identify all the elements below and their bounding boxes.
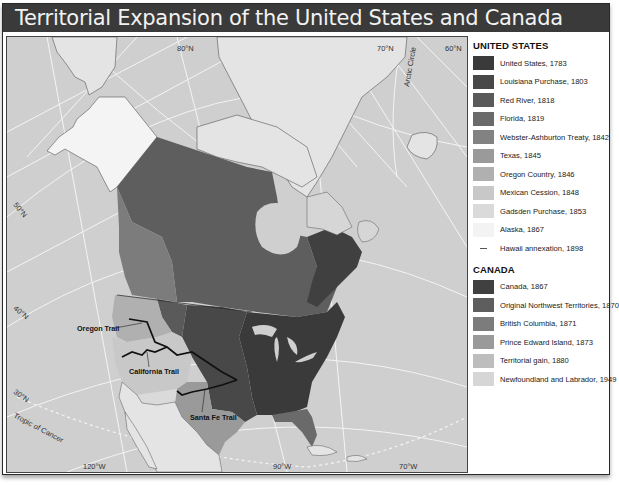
legend-item: Hawaii annexation, 1898 xyxy=(473,239,609,258)
legend-label: Louisiana Purchase, 1803 xyxy=(500,77,588,86)
legend-label: Prince Edward Island, 1873 xyxy=(500,338,593,347)
color-swatch xyxy=(473,317,494,331)
map-title: Territorial Expansion of the United Stat… xyxy=(15,6,563,30)
color-swatch xyxy=(473,56,494,70)
legend-label: Red River, 1818 xyxy=(500,96,554,105)
title-bar: Territorial Expansion of the United Stat… xyxy=(3,4,609,32)
color-swatch xyxy=(473,75,494,89)
color-swatch xyxy=(473,335,494,349)
legend: UNITED STATES United States, 1783Louisia… xyxy=(469,36,609,471)
color-swatch xyxy=(473,372,494,386)
oregon-trail-label: Oregon Trail xyxy=(77,324,119,333)
legend-item: Newfoundland and Labrador, 1949 xyxy=(473,370,609,389)
legend-item: Original Northwest Territories, 1870 xyxy=(473,296,609,315)
lon-70w-label: 70°W xyxy=(399,462,418,471)
legend-label: Newfoundland and Labrador, 1949 xyxy=(500,375,617,384)
legend-item: Oregon Country, 1846 xyxy=(473,165,609,184)
line-symbol-icon xyxy=(473,241,494,255)
legend-item: Canada, 1867 xyxy=(473,278,609,297)
legend-label: Original Northwest Territories, 1870 xyxy=(500,301,619,310)
color-swatch xyxy=(473,204,494,218)
color-swatch xyxy=(473,130,494,144)
color-swatch xyxy=(473,354,494,368)
map-figure: Territorial Expansion of the United Stat… xyxy=(2,3,610,475)
legend-item: British Columbia, 1871 xyxy=(473,315,609,334)
color-swatch xyxy=(473,298,494,312)
legend-label: Texas, 1845 xyxy=(500,151,541,160)
legend-item: Mexican Cession, 1848 xyxy=(473,184,609,203)
legend-label: Florida, 1819 xyxy=(500,114,544,123)
legend-label: British Columbia, 1871 xyxy=(500,319,576,328)
legend-item: Red River, 1818 xyxy=(473,91,609,110)
legend-label: Hawaii annexation, 1898 xyxy=(500,244,583,253)
lat-80n-label: 80°N xyxy=(177,44,194,53)
legend-label: Oregon Country, 1846 xyxy=(500,170,575,179)
hudson-bay xyxy=(255,203,301,255)
california-trail-label: California Trail xyxy=(129,367,179,376)
legend-item: Louisiana Purchase, 1803 xyxy=(473,73,609,92)
legend-item: Alaska, 1867 xyxy=(473,221,609,240)
legend-label: Webster-Ashburton Treaty, 1842 xyxy=(500,133,609,142)
lon-90w-label: 90°W xyxy=(273,462,292,471)
legend-us-list: United States, 1783Louisiana Purchase, 1… xyxy=(469,54,609,258)
legend-label: Gadsden Purchase, 1853 xyxy=(500,207,586,216)
legend-canada-heading: CANADA xyxy=(473,264,609,275)
legend-item: United States, 1783 xyxy=(473,54,609,73)
legend-item: Florida, 1819 xyxy=(473,110,609,129)
lon-120w-label: 120°W xyxy=(83,462,107,471)
legend-us-heading: UNITED STATES xyxy=(473,40,609,51)
color-swatch xyxy=(473,112,494,126)
color-swatch xyxy=(473,186,494,200)
legend-label: Mexican Cession, 1848 xyxy=(500,188,579,197)
santa-fe-trail-label: Santa Fe Trail xyxy=(190,413,237,422)
legend-item: Territorial gain, 1880 xyxy=(473,352,609,371)
legend-item: Prince Edward Island, 1873 xyxy=(473,333,609,352)
map-area: Oregon Trail California Trail Santa Fe T… xyxy=(6,36,468,473)
legend-label: Territorial gain, 1880 xyxy=(500,356,569,365)
legend-label: Alaska, 1867 xyxy=(500,225,544,234)
lat-60n-label: 60°N xyxy=(445,44,462,53)
legend-label: Canada, 1867 xyxy=(500,282,548,291)
legend-label: United States, 1783 xyxy=(500,59,567,68)
legend-canada-list: Canada, 1867Original Northwest Territori… xyxy=(469,278,609,389)
legend-item: Texas, 1845 xyxy=(473,147,609,166)
color-swatch xyxy=(473,93,494,107)
color-swatch xyxy=(473,223,494,237)
legend-item: Gadsden Purchase, 1853 xyxy=(473,202,609,221)
color-swatch xyxy=(473,280,494,294)
lat-70n-label: 70°N xyxy=(377,44,394,53)
map-canvas: Oregon Trail California Trail Santa Fe T… xyxy=(7,37,467,472)
color-swatch xyxy=(473,149,494,163)
color-swatch xyxy=(473,167,494,181)
legend-item: Webster-Ashburton Treaty, 1842 xyxy=(473,128,609,147)
